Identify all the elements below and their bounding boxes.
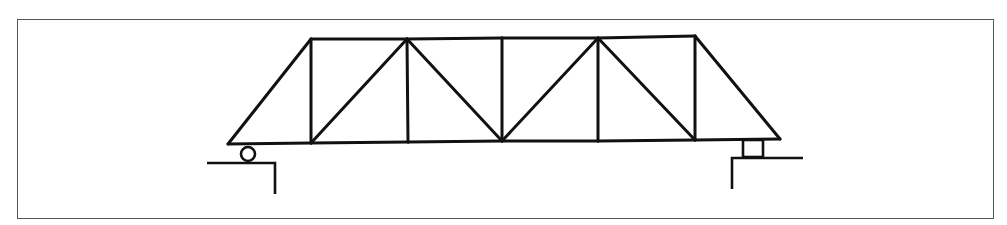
- truss-members: [228, 36, 780, 144]
- left-abutment: [207, 163, 275, 194]
- truss-member-T2-T3: [407, 38, 502, 39]
- truss-member-B5-B6: [695, 139, 780, 140]
- truss-member-T2-B3: [407, 39, 502, 141]
- truss-member-T4-B5: [598, 38, 695, 140]
- pin-support-block-icon: [743, 140, 763, 157]
- bridge-supports: [207, 140, 803, 194]
- truss-member-B2-B3: [408, 141, 502, 142]
- truss-member-B3-T4: [502, 38, 598, 141]
- truss-member-B1-B2: [311, 142, 408, 143]
- right-abutment: [732, 158, 803, 189]
- truss-member-T5-B6: [695, 36, 780, 139]
- truss-member-B0-T1: [228, 39, 311, 144]
- truss-member-B0-B1: [228, 143, 311, 144]
- truss-diagram: [0, 0, 1007, 225]
- truss-member-B2-T2: [407, 39, 408, 142]
- truss-member-B1-T2: [311, 39, 407, 143]
- truss-member-B4-B5: [598, 140, 695, 141]
- truss-member-T4-T5: [598, 36, 695, 38]
- roller-support-icon: [241, 147, 255, 161]
